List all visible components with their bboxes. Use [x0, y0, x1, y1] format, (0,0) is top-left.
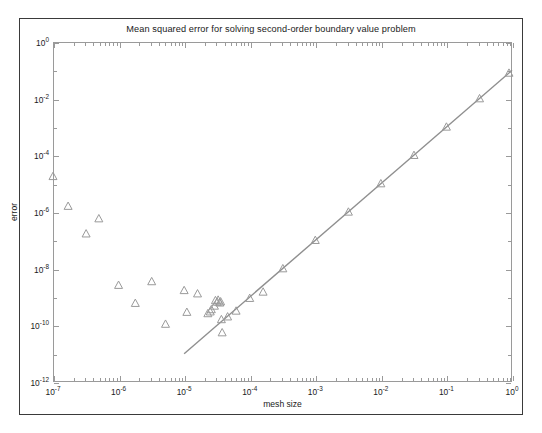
data-point-marker — [259, 288, 267, 295]
data-point-marker — [49, 172, 57, 179]
data-point-marker — [131, 299, 139, 306]
data-point-marker — [115, 281, 123, 288]
data-point-marker — [183, 308, 191, 315]
plot-data-layer — [0, 0, 542, 433]
data-point-marker — [148, 277, 156, 284]
data-point-marker — [64, 202, 72, 209]
scatter-markers — [49, 69, 513, 336]
y-axis-title: error — [9, 203, 19, 221]
x-axis-title: mesh size — [53, 399, 512, 409]
figure-root: Mean squared error for solving second-or… — [0, 0, 542, 433]
data-point-marker — [82, 230, 90, 237]
data-point-marker — [194, 290, 202, 297]
data-point-marker — [180, 286, 188, 293]
data-point-marker — [218, 328, 226, 335]
data-point-marker — [95, 215, 103, 222]
data-point-marker — [162, 320, 170, 327]
